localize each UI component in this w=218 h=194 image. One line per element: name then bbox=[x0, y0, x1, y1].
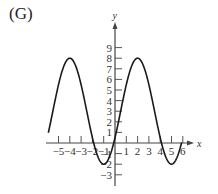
x-axis-arrow-icon bbox=[187, 141, 194, 146]
x-axis-label: x bbox=[196, 138, 202, 149]
x-tick-label: 1 bbox=[124, 145, 130, 157]
sinusoid-chart: xy−5−4−3−2−1123456−3−2−1123456789 bbox=[0, 0, 218, 194]
axes bbox=[46, 22, 194, 186]
y-tick-label: −3 bbox=[100, 169, 112, 181]
y-axis-label: y bbox=[112, 10, 118, 21]
tick-labels: xy−5−4−3−2−1123456−3−2−1123456789 bbox=[53, 10, 202, 181]
y-tick-label: 7 bbox=[107, 63, 113, 75]
y-tick-label: 3 bbox=[107, 105, 113, 117]
y-tick-label: 8 bbox=[107, 52, 113, 64]
x-tick-label: 2 bbox=[135, 145, 141, 157]
y-tick-label: 5 bbox=[107, 84, 113, 96]
x-tick-label: 3 bbox=[146, 145, 152, 157]
y-tick-label: 4 bbox=[107, 95, 113, 107]
x-tick-label: 5 bbox=[169, 145, 175, 157]
y-tick-label: 9 bbox=[107, 42, 113, 54]
y-tick-label: 6 bbox=[107, 73, 113, 85]
y-axis-arrow-icon bbox=[113, 22, 118, 29]
y-tick-label: 1 bbox=[107, 126, 113, 138]
y-tick-label: 2 bbox=[107, 116, 113, 128]
